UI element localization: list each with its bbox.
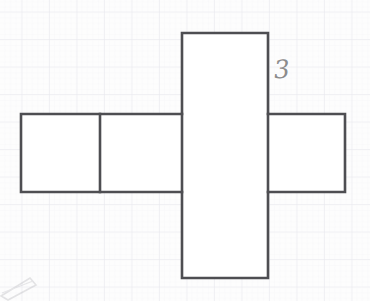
drawing-canvas: 3	[0, 0, 370, 301]
square-top	[182, 33, 268, 114]
square-bottom	[182, 192, 268, 278]
cube-net-figure	[0, 0, 370, 301]
square-center-left	[100, 114, 182, 192]
dimension-label-3: 3	[273, 56, 291, 82]
square-center	[182, 114, 268, 192]
square-left	[21, 114, 100, 192]
square-right	[268, 114, 345, 192]
